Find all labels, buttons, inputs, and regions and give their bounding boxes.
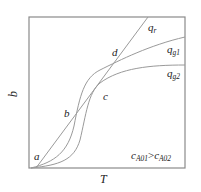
qg1-label: qg1: [167, 44, 180, 56]
point-d-label: d: [112, 47, 118, 58]
heat-generation-removal-diagram: a b c d qr qg1 qg2 cA01>cA02 T q: [0, 0, 201, 192]
cond-left-sub: A01: [136, 154, 148, 163]
qr-label-sub: r: [154, 26, 157, 35]
point-a-label: a: [34, 151, 40, 162]
x-axis-label: T: [100, 173, 107, 185]
cond-right-sub: A02: [159, 154, 171, 163]
qg1-label-sub: g1: [173, 48, 180, 57]
qr-label: qr: [148, 22, 156, 34]
qg1-curve: [31, 37, 185, 168]
diagram-canvas: [0, 0, 201, 192]
qr-line: [36, 17, 148, 168]
point-b-label: b: [64, 108, 70, 119]
qg2-label-sub: g2: [173, 72, 180, 81]
y-axis-label: q: [9, 91, 21, 97]
point-c-label: c: [103, 91, 108, 102]
condition-annotation: cA01>cA02: [131, 150, 171, 162]
qg2-label: qg2: [167, 68, 180, 80]
